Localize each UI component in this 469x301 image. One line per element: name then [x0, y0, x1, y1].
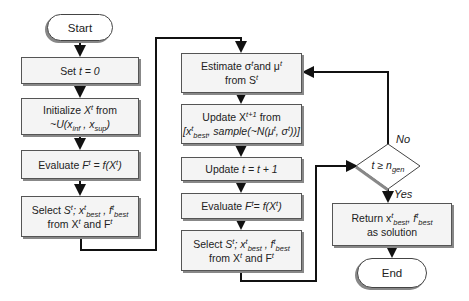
msel-l2b: and F — [242, 252, 272, 264]
upd-asup: t+1 — [246, 110, 257, 119]
return-box: Return xtbest, ftbest as solution — [332, 203, 452, 246]
ret-a: Return x — [351, 212, 391, 224]
msel-x: ; x — [234, 238, 245, 250]
sel-l2a: from X — [48, 218, 79, 230]
select-box-middle: Select St; xtbest , ftbest from Xt and F… — [181, 230, 302, 271]
initialize-box: Initialize Xt from ~U(xinf , xsup) — [21, 98, 139, 135]
end-terminal: End — [357, 258, 427, 288]
sel-l2sup2: t — [110, 216, 112, 225]
meval-end: ) — [278, 200, 282, 212]
upd-b: from — [257, 111, 281, 123]
dec-a: t ≥ n — [372, 159, 392, 171]
updt-var: t = t + 1 — [242, 163, 278, 175]
msel-fsub: best — [276, 244, 290, 253]
evaluate-box-middle: Evaluate Ft= f(Xt) — [181, 193, 302, 219]
decision-label: t ≥ ngen — [358, 159, 418, 171]
est-l2: from S — [225, 74, 256, 86]
init-var: X — [84, 104, 91, 116]
upd-l2a: [x — [183, 125, 191, 137]
sel-x: ; x — [73, 204, 84, 216]
yes-label: Yes — [394, 188, 412, 200]
meval-eq: = f(X — [254, 200, 276, 212]
upd-l2b: , sample(~N(μ — [208, 125, 274, 137]
update-t-box: Update t = t + 1 — [181, 157, 302, 181]
updt-prefix: Update — [205, 163, 242, 175]
est-l2sup: t — [256, 73, 258, 82]
select-box-left: Select St; xtbest , ftbest from Xt and F… — [21, 196, 139, 237]
upd-l2d: ))] — [290, 125, 300, 137]
estimate-box: Estimate σtand μt from St — [181, 53, 302, 93]
dec-sub: gen — [392, 165, 405, 174]
init-l2: ~U(x — [50, 118, 72, 130]
sel-S: S — [64, 204, 71, 216]
start-label: Start — [68, 22, 92, 34]
ret-l2: as solution — [367, 226, 417, 238]
end-label: End — [382, 267, 402, 279]
upd-a: Update X — [202, 111, 246, 123]
init-suffix: from — [93, 104, 117, 116]
set-t-box: Set t = 0 — [21, 57, 139, 84]
set-prefix: Set — [60, 65, 79, 77]
msel-l2sup2: t — [272, 250, 274, 259]
est-a: Estimate σ — [201, 60, 251, 72]
update-x-box: Update Xt+1 from [xtbest, sample(~N(μt, … — [181, 104, 302, 144]
meval-prefix: Evaluate — [201, 200, 245, 212]
init-end: ) — [107, 118, 111, 130]
sel-f: , f — [100, 204, 112, 216]
eval-prefix: Evaluate — [38, 159, 82, 171]
est-bsup: t — [280, 59, 282, 68]
no-label: No — [396, 133, 410, 145]
sel-l2b: and F — [81, 218, 111, 230]
msel-f: , f — [262, 238, 274, 250]
start-terminal: Start — [47, 14, 113, 41]
upd-l2c: , σ — [276, 125, 288, 137]
est-b: and μ — [253, 60, 280, 72]
evaluate-box-left: Evaluate Ft = f(Xt) — [21, 150, 139, 179]
msel-prefix: Select — [193, 238, 225, 250]
eval-end: ) — [118, 159, 122, 171]
msel-l2a: from X — [209, 252, 240, 264]
set-var: t = 0 — [79, 65, 100, 77]
sel-prefix: Select — [32, 204, 64, 216]
init-sub2: sup — [94, 124, 106, 133]
ret-b: , f — [407, 212, 416, 224]
sel-fsub: best — [114, 210, 128, 219]
init-prefix: Initialize — [43, 104, 84, 116]
ret-bsub: best — [418, 218, 432, 227]
eval-eq: = f(X — [91, 159, 116, 171]
upd-l2sub: best — [193, 131, 207, 140]
init-mid: , x — [80, 118, 94, 130]
